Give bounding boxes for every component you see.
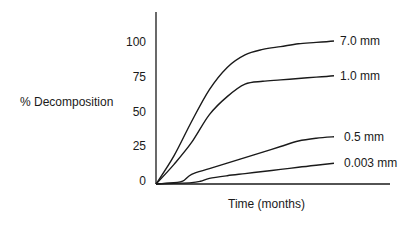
series-label: 7.0 mm xyxy=(340,34,380,48)
y-tick-labels: 0255075100 xyxy=(126,35,146,188)
series-label: 0.5 mm xyxy=(344,130,384,144)
y-tick-label: 50 xyxy=(133,105,147,119)
series-curves xyxy=(156,41,334,184)
y-tick-label: 75 xyxy=(133,70,147,84)
y-axis-label: % Decomposition xyxy=(20,95,113,109)
x-axis-label: Time (months) xyxy=(228,197,305,211)
series-label: 1.0 mm xyxy=(340,69,380,83)
series-line-1-0-mm xyxy=(156,76,334,184)
y-tick-label: 25 xyxy=(133,139,147,153)
series-line-0-5-mm xyxy=(156,137,334,184)
y-tick-label: 100 xyxy=(126,35,146,49)
series-label: 0.003 mm xyxy=(344,156,397,170)
series-line-7-0-mm xyxy=(156,41,334,184)
y-tick-label: 0 xyxy=(139,174,146,188)
series-labels: 7.0 mm1.0 mm0.5 mm0.003 mm xyxy=(340,34,397,170)
decomposition-chart: % Decomposition Time (months) 0255075100… xyxy=(0,0,420,226)
